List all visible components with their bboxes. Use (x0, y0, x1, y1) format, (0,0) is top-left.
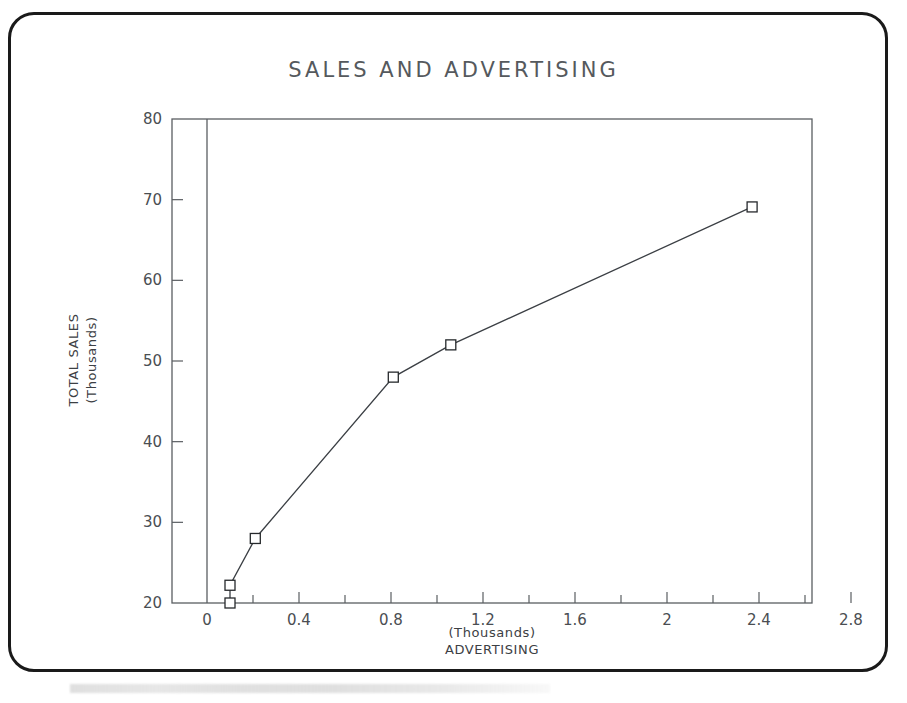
y-tick-label: 30 (143, 513, 162, 531)
y-tick-label: 40 (143, 433, 162, 451)
data-point-marker (388, 372, 398, 382)
plot-frame (172, 119, 812, 603)
y-tick-label: 80 (143, 110, 162, 128)
series-markers-total-sales (225, 202, 757, 608)
x-tick-label: 2.8 (839, 611, 863, 629)
data-point-marker (250, 533, 260, 543)
data-point-marker (747, 202, 757, 212)
x-axis-units-label: (Thousands) (448, 625, 535, 640)
y-axis-units-label: (Thousands) (84, 316, 99, 403)
plot-svg: 20304050607080 00.40.81.21.622.42.8 (Tho… (0, 0, 907, 703)
chart-figure: SALES AND ADVERTISING 20304050607080 00.… (0, 0, 907, 703)
x-tick-label: 2.4 (747, 611, 771, 629)
data-point-marker (225, 580, 235, 590)
x-tick-label: 2 (662, 611, 672, 629)
x-tick-label: 0.4 (287, 611, 311, 629)
x-tick-label: 0.8 (379, 611, 403, 629)
x-tick-label: 0 (202, 611, 212, 629)
data-point-marker (446, 340, 456, 350)
series-line-total-sales (230, 207, 752, 603)
data-point-marker (225, 598, 235, 608)
x-tick-label: 1.6 (563, 611, 587, 629)
y-tick-label: 70 (143, 191, 162, 209)
y-axis-ticks (172, 200, 183, 523)
y-axis-title: TOTAL SALES (66, 313, 81, 407)
y-axis-tick-labels: 20304050607080 (143, 110, 162, 612)
x-axis-ticks (299, 592, 851, 603)
y-tick-label: 60 (143, 271, 162, 289)
x-axis-minor-ticks (253, 595, 805, 603)
chart-page: SALES AND ADVERTISING 20304050607080 00.… (0, 0, 907, 703)
y-tick-label: 50 (143, 352, 162, 370)
x-axis-title: ADVERTISING (445, 642, 539, 657)
y-tick-label: 20 (143, 594, 162, 612)
